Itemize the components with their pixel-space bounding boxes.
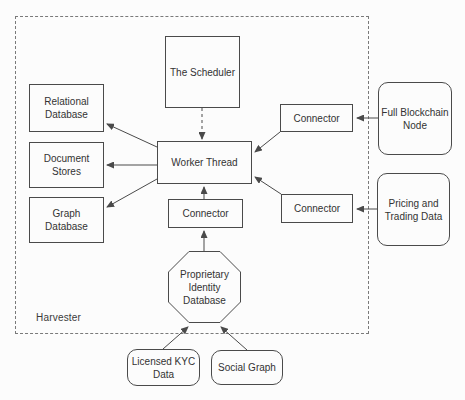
node-scheduler: The Scheduler — [165, 36, 240, 108]
edge-worker-to-relational — [107, 124, 157, 147]
node-label-proprietary-identity-database: Proprietary Identity Database — [180, 268, 229, 307]
edge-connector-bottom-right-to-worker — [255, 177, 281, 194]
diagram-canvas: Harvester The SchedulerRelational Databa… — [0, 0, 465, 400]
node-connector-bottom-right: Connector — [281, 194, 353, 223]
node-document-stores: Document Stores — [29, 142, 104, 188]
node-label-full-blockchain-node: Full Blockchain Node — [381, 106, 448, 132]
node-relational-database: Relational Database — [29, 84, 104, 132]
node-worker-thread: Worker Thread — [157, 141, 252, 184]
node-label-connector-top-right: Connector — [293, 112, 339, 125]
edge-connector-top-right-to-worker — [255, 132, 280, 152]
node-label-document-stores: Document Stores — [44, 152, 90, 178]
edge-social-to-octagon — [221, 327, 247, 350]
node-social-graph: Social Graph — [211, 350, 283, 385]
edge-kyc-to-octagon — [163, 327, 188, 349]
node-licensed-kyc-data: Licensed KYC Data — [127, 349, 200, 386]
node-label-social-graph: Social Graph — [218, 361, 276, 374]
node-label-scheduler: The Scheduler — [170, 66, 235, 79]
node-label-connector-bottom: Connector — [182, 207, 228, 220]
node-connector-bottom: Connector — [168, 199, 243, 228]
node-label-pricing-trading-data: Pricing and Trading Data — [385, 197, 442, 223]
node-label-relational-database: Relational Database — [44, 95, 88, 121]
node-connector-top-right: Connector — [280, 104, 353, 132]
node-full-blockchain-node: Full Blockchain Node — [378, 82, 452, 155]
node-label-worker-thread: Worker Thread — [171, 156, 237, 169]
node-proprietary-identity-database: Proprietary Identity Database — [168, 251, 241, 323]
node-label-connector-bottom-right: Connector — [294, 202, 340, 215]
node-pricing-trading-data: Pricing and Trading Data — [377, 173, 450, 246]
node-graph-database: Graph Database — [29, 197, 104, 243]
edge-worker-to-graph — [107, 179, 157, 207]
node-label-graph-database: Graph Database — [45, 207, 88, 233]
node-label-licensed-kyc-data: Licensed KYC Data — [132, 355, 195, 381]
